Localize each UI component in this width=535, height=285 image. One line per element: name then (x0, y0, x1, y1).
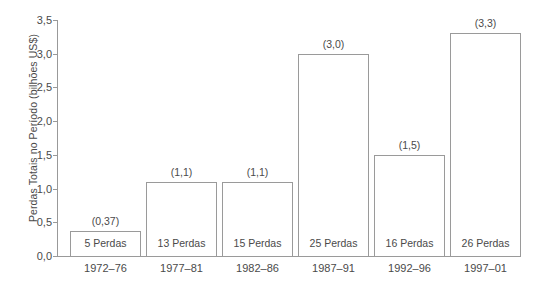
x-axis-tick-label: 1982–86 (222, 262, 293, 274)
x-axis-tick-label: 1997–01 (450, 262, 521, 274)
bar-inner-label: 5 Perdas (70, 237, 141, 249)
bar-value-label: (0,37) (70, 215, 141, 227)
x-axis-tick-label: 1987–91 (298, 262, 369, 274)
bar-inner-label: 26 Perdas (450, 237, 521, 249)
bar-inner-label: 25 Perdas (298, 237, 369, 249)
bar-value-label: (3,0) (298, 38, 369, 50)
x-axis-tick-label: 1977–81 (146, 262, 217, 274)
bar-value-label: (1,5) (374, 139, 445, 151)
x-axis-tick-label: 1972–76 (70, 262, 141, 274)
plot-area: (0,37)5 Perdas1972–76(1,1)13 Perdas1977–… (0, 0, 535, 285)
bar (298, 54, 369, 257)
y-axis-tick-mark (53, 222, 58, 223)
y-axis-tick-mark (53, 54, 58, 55)
bar-inner-label: 15 Perdas (222, 237, 293, 249)
bar-inner-label: 16 Perdas (374, 237, 445, 249)
bar-value-label: (1,1) (222, 166, 293, 178)
y-axis-tick-mark (53, 189, 58, 190)
bar-value-label: (1,1) (146, 166, 217, 178)
x-axis-tick-label: 1992–96 (374, 262, 445, 274)
bar-value-label: (3,3) (450, 17, 521, 29)
y-axis-tick-mark (53, 87, 58, 88)
bar-inner-label: 13 Perdas (146, 237, 217, 249)
y-axis-tick-mark (53, 155, 58, 156)
y-axis-tick-mark (53, 121, 58, 122)
y-axis-tick-mark (53, 256, 58, 257)
bar-chart: Perdas Totais no Período (bilhões US$) 0… (0, 0, 535, 285)
bar (450, 33, 521, 257)
y-axis-tick-mark (53, 20, 58, 21)
